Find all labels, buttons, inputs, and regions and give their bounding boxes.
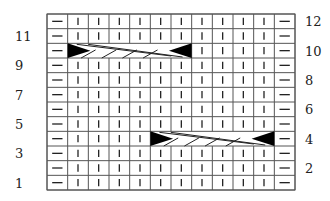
row-labels-left: 1357911 xyxy=(15,29,32,191)
row-label-left: 9 xyxy=(15,58,23,73)
knitting-chart: 1357911 24681012 xyxy=(0,0,330,201)
row-label-left: 11 xyxy=(15,29,32,44)
row-label-right: 2 xyxy=(305,161,313,176)
row-label-left: 7 xyxy=(15,88,23,103)
cable-slant-stroke xyxy=(102,50,116,58)
row-label-right: 6 xyxy=(305,102,313,117)
cable-slant-stroke xyxy=(184,138,198,146)
row-label-left: 5 xyxy=(15,117,23,132)
row-label-right: 10 xyxy=(305,44,322,59)
cable-cross-icon xyxy=(68,43,192,58)
row-labels-right: 24681012 xyxy=(305,14,322,176)
row-label-right: 4 xyxy=(305,132,313,147)
cable-cross-icon xyxy=(150,131,274,146)
grid-lines xyxy=(47,14,295,190)
row-label-right: 8 xyxy=(305,73,313,88)
row-label-left: 1 xyxy=(15,176,23,191)
row-label-right: 12 xyxy=(305,14,322,29)
row-label-left: 3 xyxy=(15,146,23,161)
